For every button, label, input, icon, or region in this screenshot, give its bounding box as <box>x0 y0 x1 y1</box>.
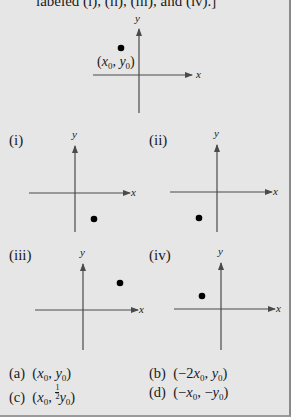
point-iv <box>199 293 206 300</box>
main-x-label: x <box>196 68 201 80</box>
main-point-label: (x0, y0) <box>97 54 135 71</box>
graph-ii <box>170 145 272 232</box>
panel-label-iii: (iii) <box>9 247 32 264</box>
y-label-ii: y <box>214 127 219 139</box>
x-label-iii: x <box>139 303 144 315</box>
y-label-iv: y <box>218 245 223 257</box>
panel-label-i: (i) <box>9 132 23 149</box>
answer-a: (a) (x0, y0) <box>9 365 71 383</box>
main-graph <box>93 29 192 113</box>
y-label-i: y <box>72 128 77 140</box>
graph-iv <box>174 263 275 350</box>
x-label-i: x <box>131 186 136 198</box>
main-y-label: y <box>135 12 140 24</box>
x-label-iv: x <box>276 302 281 314</box>
point-i <box>91 216 98 223</box>
point-ii <box>196 215 203 222</box>
graphs-canvas <box>0 0 289 415</box>
exercise-panel: labeled (i), (ii), (iii), and (iv).] <box>0 0 291 417</box>
panel-label-ii: (ii) <box>149 132 167 149</box>
graph-i <box>29 146 130 232</box>
panel-label-iv: (iv) <box>149 247 171 264</box>
main-point <box>118 45 125 52</box>
answer-b: (b) (−2x0, y0) <box>149 365 227 383</box>
graph-iii <box>35 264 138 350</box>
x-label-ii: x <box>273 185 278 197</box>
answer-c: (c) (x0, 12y0) <box>9 384 75 407</box>
point-iii <box>117 280 124 287</box>
answer-d: (d) (−x0, −y0) <box>149 384 228 402</box>
y-label-iii: y <box>80 246 85 258</box>
